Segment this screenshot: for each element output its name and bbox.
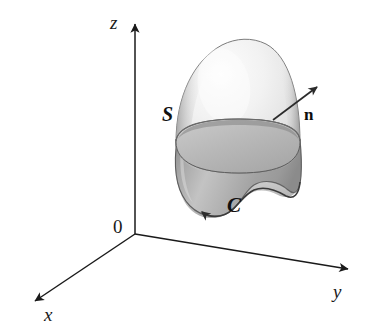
- y-axis-line: [135, 234, 348, 269]
- normal-vector-label-n: n: [304, 106, 313, 123]
- surface-s: [175, 39, 301, 218]
- stokes-theorem-figure: z y x 0 S n C: [0, 0, 372, 333]
- curve-label-c: C: [227, 195, 241, 216]
- surface-label-s: S: [162, 104, 173, 124]
- figure-canvas: [0, 0, 372, 333]
- z-axis-label: z: [110, 13, 117, 32]
- x-axis-label: x: [44, 305, 52, 324]
- x-axis-line: [35, 234, 135, 301]
- y-axis-label: y: [333, 282, 341, 301]
- origin-label: 0: [113, 217, 123, 236]
